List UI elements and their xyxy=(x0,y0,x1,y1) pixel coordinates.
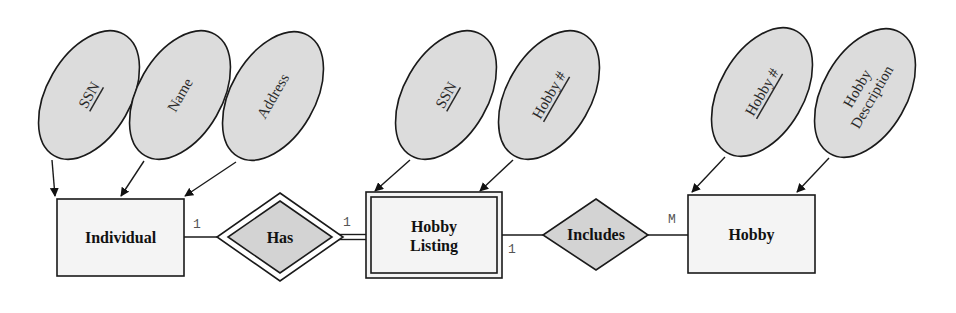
er-diagram: SSN Name Address SSN Hobby # Hobby # Hob… xyxy=(0,0,956,313)
arrow-hobbynum-to-hobby xyxy=(692,157,725,192)
entity-hobby-listing[interactable]: Hobby Listing xyxy=(366,192,502,278)
attribute-connectors xyxy=(52,157,829,196)
attribute-hobby-description[interactable]: Hobby Description xyxy=(794,11,937,174)
arrow-ssn-to-hobby-listing xyxy=(375,160,410,191)
relationship-includes[interactable]: Includes xyxy=(543,199,648,270)
cardinality-hobby-listing-includes: 1 xyxy=(508,242,516,257)
entity-label-line-2: Listing xyxy=(410,237,458,255)
entity-label: Hobby xyxy=(728,226,774,244)
cardinality-has-hobby-listing: 1 xyxy=(343,215,351,230)
arrow-hobbynum-to-hobby-listing xyxy=(480,160,513,191)
cardinality-individual-has: 1 xyxy=(193,217,201,232)
arrow-name-to-individual xyxy=(121,161,144,196)
entity-hobby[interactable]: Hobby xyxy=(688,195,815,273)
arrow-ssn-to-individual xyxy=(52,160,55,196)
attribute-hobbynum-hobby-listing[interactable]: Hobby # xyxy=(478,13,621,176)
attribute-ssn-hobby-listing[interactable]: SSN xyxy=(375,13,518,176)
entity-label: Individual xyxy=(85,229,157,246)
attribute-hobbynum-hobby[interactable]: Hobby # xyxy=(691,10,834,173)
relationship-has[interactable]: Has xyxy=(217,193,343,281)
arrow-description-to-hobby xyxy=(797,158,829,192)
arrow-address-to-individual xyxy=(185,162,236,196)
relationship-label: Includes xyxy=(567,226,625,243)
entity-individual[interactable]: Individual xyxy=(57,199,184,276)
entity-label-line-1: Hobby xyxy=(411,218,457,236)
entity-box-inner xyxy=(371,197,497,273)
cardinality-includes-hobby: M xyxy=(668,212,676,227)
relationship-label: Has xyxy=(267,229,294,246)
